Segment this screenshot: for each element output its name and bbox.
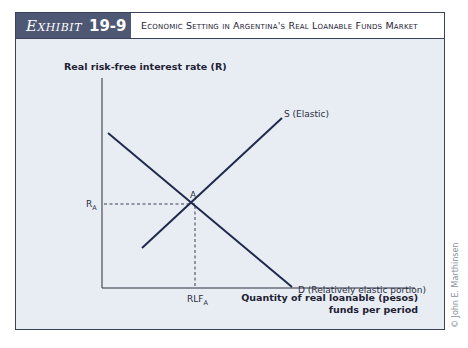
y-axis-label: Real risk-free interest rate (R) bbox=[64, 61, 227, 72]
x-axis-label-line2: funds per period bbox=[329, 304, 418, 315]
supply-curve bbox=[142, 118, 282, 248]
x-axis-label-line1: Quantity of real loanable (pesos) bbox=[241, 292, 418, 303]
rlf-sub: A bbox=[203, 299, 208, 307]
ra-sub: A bbox=[92, 204, 97, 212]
supply-label: S (Elastic) bbox=[284, 109, 329, 119]
rlf-main: RLF bbox=[187, 294, 203, 304]
copyright-notice: © John E. Marthinsen bbox=[451, 243, 460, 328]
rlf-tick-label: RLFA bbox=[187, 294, 208, 307]
ra-tick-label: RA bbox=[86, 199, 97, 212]
demand-curve bbox=[108, 133, 292, 287]
equilibrium-point-label: A bbox=[190, 190, 197, 200]
loanable-funds-chart: Real risk-free interest rate (R) S (Elas… bbox=[0, 0, 468, 348]
